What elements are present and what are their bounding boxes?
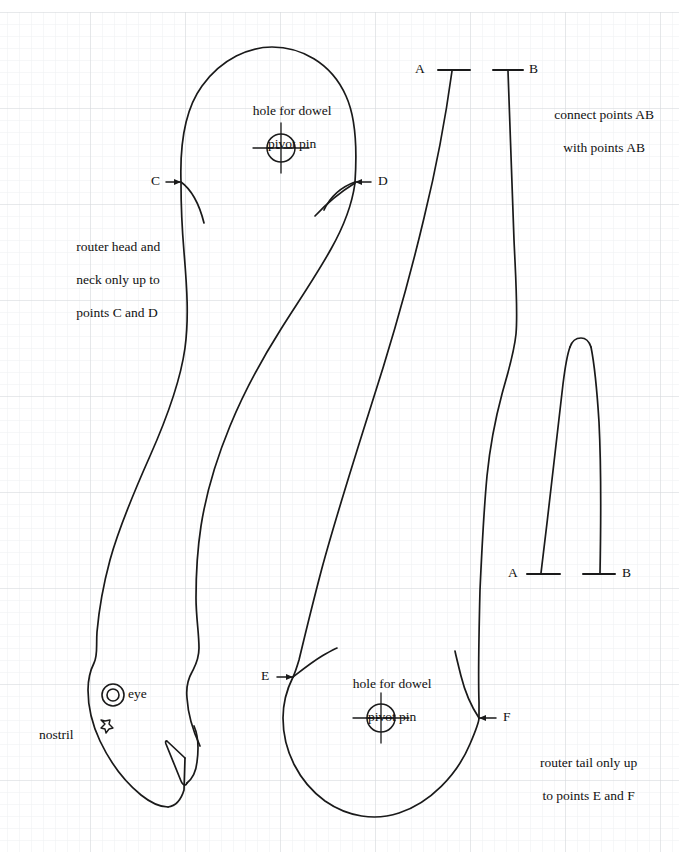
tapered-piece-top-cap [570,338,591,347]
nostril-symbol [101,720,113,733]
body-right-curve-B-to-F [479,71,517,718]
leader-arrow-E [277,674,293,680]
leader-arrow-D [355,179,371,185]
jaw-upper-tip-path [187,726,198,783]
tail-inner-flick-E [293,648,337,677]
dowel-hole-head-symbol [253,123,309,173]
head-outline-path [181,47,356,182]
head-cheek-left-flick [181,182,204,223]
neck-front-line [88,183,187,807]
body-left-curve-A-to-E [293,71,452,677]
tapered-piece-left-edge [541,347,570,573]
dowel-hole-tail-symbol [353,693,409,743]
leader-arrow-C [166,179,181,185]
leader-arrow-F [479,715,496,721]
drawing-sheet: A B A B C D E F hole for dowel pivot pin… [0,0,679,865]
tapered-piece-right-edge [591,347,601,573]
eye-symbol [102,684,124,706]
technical-drawing-linework [0,0,679,865]
tail-inner-flick-F [455,651,479,718]
neck-back-body-line [187,183,355,746]
